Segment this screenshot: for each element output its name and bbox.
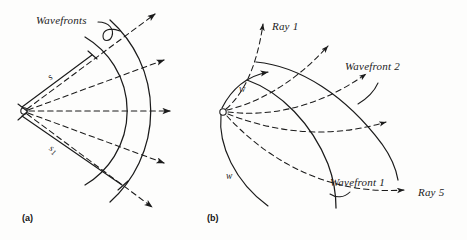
panel-tag-b: (b) — [207, 213, 219, 223]
panel-a-distance-s1-bracket — [18, 112, 128, 190]
panel-a-ray-5 — [27, 114, 152, 207]
panel-b-ray-4 — [228, 114, 386, 132]
panel-tag-a: (a) — [22, 213, 33, 223]
panel-b-ray-3 — [228, 74, 366, 113]
panel-b-ray-2 — [227, 46, 328, 110]
panel-a-ray-1 — [27, 14, 155, 109]
label-wavefronts: Wavefronts — [36, 14, 87, 26]
label-ray-5: Ray 5 — [418, 186, 444, 198]
panel-b-ray-1 — [226, 24, 263, 109]
panel-b-wavefront-2-leader — [358, 83, 378, 104]
panel-b-source-point — [220, 109, 226, 115]
figure-container: Wavefronts s s1 (a) Ray 1 Wavefront 2 w … — [0, 0, 467, 240]
panel-b-wavefront-1-leader — [330, 192, 350, 197]
panel-a-linework — [18, 14, 170, 207]
figure-linework — [0, 0, 467, 240]
label-wavefront-1: Wavefront 1 — [330, 176, 385, 188]
panel-b-distance-w-lower — [221, 115, 268, 206]
panel-a-distance-s-bracket — [18, 51, 97, 111]
label-wavefront-2: Wavefront 2 — [345, 60, 400, 72]
panel-a-ray-2 — [28, 60, 164, 110]
panel-a-rays — [27, 14, 170, 207]
panel-a-ray-4 — [28, 113, 164, 163]
panel-b-wavefront-1 — [247, 80, 336, 208]
label-w-upper: w — [239, 84, 246, 94]
label-w-lower: w — [226, 171, 233, 181]
panel-a-wavefronts-leader — [98, 22, 120, 41]
label-ray-1: Ray 1 — [272, 20, 298, 32]
